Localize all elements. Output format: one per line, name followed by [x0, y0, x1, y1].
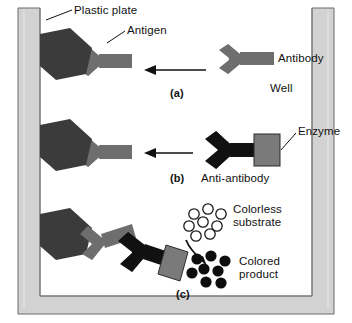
product-circle — [191, 253, 202, 264]
panel-caption-c: (c) — [176, 288, 190, 301]
product-circle — [186, 267, 197, 278]
enzyme-square-b — [254, 134, 280, 166]
label-antibody: Antibody — [278, 52, 324, 65]
product-circle — [198, 263, 209, 274]
label-colored-product-line2: product — [239, 268, 278, 281]
elisa-diagram — [0, 0, 352, 323]
antibody-b-stem — [99, 145, 132, 159]
label-colorless-substrate-line1: Colorless — [233, 203, 282, 216]
label-antigen: Antigen — [127, 24, 167, 37]
label-anti-antibody: Anti-antibody — [201, 172, 269, 185]
panel-caption-a: (a) — [170, 87, 184, 100]
anti-antibody-stem — [230, 143, 256, 157]
label-plastic-plate: Plastic plate — [74, 4, 137, 17]
label-well: Well — [270, 82, 293, 95]
product-circle — [212, 265, 223, 276]
antibody-stem — [99, 54, 132, 68]
product-circle — [219, 255, 230, 266]
diagram-canvas — [0, 0, 352, 323]
label-enzyme: Enzyme — [298, 125, 340, 138]
product-circle — [205, 250, 216, 261]
product-circle — [215, 277, 226, 288]
product-circle — [200, 276, 211, 287]
panel-caption-b: (b) — [170, 172, 184, 185]
free-antibody-stem — [240, 52, 274, 65]
label-colorless-substrate-line2: substrate — [233, 216, 281, 229]
label-colored-product-line1: Colored — [239, 255, 280, 268]
